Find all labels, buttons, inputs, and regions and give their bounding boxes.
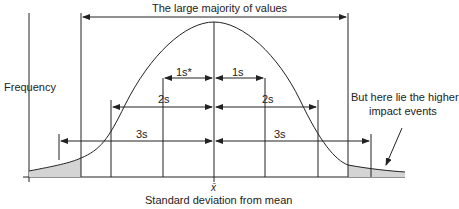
span-label-1s-right: 1s xyxy=(232,67,244,78)
x-axis-label: Standard deviation from mean xyxy=(145,195,292,206)
annotation-line-1: But here lie the higher xyxy=(351,92,459,103)
y-axis-label: Frequency xyxy=(4,82,56,93)
diagram-title: The large majority of values xyxy=(152,3,287,14)
bell-curve xyxy=(29,22,405,172)
span-label-1s-left: 1s* xyxy=(176,67,192,78)
span-label-3s-left: 3s xyxy=(136,129,148,140)
annotation-line-2: impact events xyxy=(369,106,437,117)
annotation-arrow xyxy=(386,128,402,165)
mean-symbol: x̄ xyxy=(211,183,216,193)
span-label-2s-left: 2s xyxy=(158,94,170,105)
span-label-3s-right: 3s xyxy=(274,129,286,140)
span-label-2s-right: 2s xyxy=(262,94,274,105)
